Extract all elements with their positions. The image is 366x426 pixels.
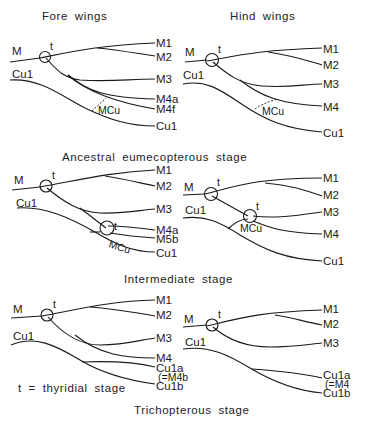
label-M2: M2 — [323, 59, 339, 71]
label-M1: M1 — [156, 37, 172, 49]
label-t-secondary: t — [256, 200, 259, 212]
label-M3: M3 — [323, 337, 339, 349]
stage-title-intermediate: Intermediate stage — [124, 273, 233, 285]
label-Cu1: Cu1 — [156, 120, 177, 132]
label-M3: M3 — [323, 206, 339, 218]
label-M1: M1 — [156, 294, 172, 306]
label-M: M — [12, 45, 22, 57]
label-M1: M1 — [323, 172, 339, 184]
label-Cu1b: Cu1b — [156, 380, 184, 392]
label-M1: M1 — [156, 164, 172, 176]
wing-venation-diagram: Fore wings Hind wings M Cu1 t M1 M2 M3 M… — [0, 0, 366, 426]
stage-ancestral-fore: M Cu1 t M1 M2 M3 M4a M4f Cu1 MCu — [10, 37, 179, 132]
fore-wings-header: Fore wings — [42, 10, 107, 22]
label-M: M — [14, 174, 24, 186]
label-Cu1-stem: Cu1 — [16, 197, 37, 209]
label-t: t — [217, 176, 220, 188]
label-Cu1b: Cu1b — [323, 387, 351, 399]
stage-trichopterous-hind: M Cu1 t M1 M2 M3 Cu1a (=M4 Cu1b — [183, 303, 351, 399]
label-MCu: MCu — [240, 222, 262, 234]
label-MCu: MCu — [107, 237, 132, 255]
label-M2: M2 — [323, 318, 339, 330]
label-t: t — [53, 298, 56, 310]
label-t: t — [52, 169, 55, 181]
label-M: M — [13, 303, 23, 315]
label-M1: M1 — [323, 43, 339, 55]
label-Cu1-stem: Cu1 — [13, 330, 34, 342]
label-MCu: MCu — [98, 104, 120, 116]
label-Cu1: Cu1 — [323, 255, 344, 267]
label-M4f: M4f — [156, 103, 176, 115]
label-M2: M2 — [156, 309, 172, 321]
label-M3: M3 — [156, 203, 172, 215]
label-Cu1-stem: Cu1 — [185, 336, 206, 348]
label-M4: M4 — [323, 228, 340, 240]
label-Cu1-stem: Cu1 — [183, 69, 204, 81]
label-t: t — [218, 43, 221, 55]
label-M: M — [184, 181, 194, 193]
label-t: t — [218, 308, 221, 320]
label-M4: M4 — [323, 101, 340, 113]
label-M2: M2 — [323, 189, 339, 201]
label-M2: M2 — [156, 51, 172, 63]
stage-intermediate-fore: M Cu1 t t M1 M2 M3 M4a M5b Cu1 MCu — [12, 164, 179, 259]
label-M5b: M5b — [156, 233, 178, 245]
label-Cu1: Cu1 — [323, 127, 344, 139]
label-MCu: MCu — [262, 105, 284, 117]
label-M1: M1 — [323, 303, 339, 315]
label-M2: M2 — [156, 180, 172, 192]
label-M: M — [185, 46, 195, 58]
stage-title-trichopterous: Trichopterous stage — [134, 404, 250, 416]
label-M3: M3 — [156, 73, 172, 85]
label-t-secondary: t — [114, 220, 117, 232]
label-Cu1-stem: Cu1 — [12, 68, 33, 80]
label-Cu1-stem: Cu1 — [185, 204, 206, 216]
stage-ancestral-hind: M Cu1 t M1 M2 M3 M4 Cu1 MCu — [183, 43, 344, 139]
stage-trichopterous-fore: M Cu1 t M1 M2 M3 M4 Cu1a (=M4b Cu1b — [11, 294, 188, 392]
stage-title-ancestral: Ancestral eumecopterous stage — [62, 151, 247, 163]
legend-thyridial: t = thyridial stage — [18, 382, 126, 394]
label-Cu1: Cu1 — [156, 247, 177, 259]
label-M3: M3 — [156, 332, 172, 344]
label-M3: M3 — [323, 78, 339, 90]
label-M: M — [184, 313, 194, 325]
hind-wings-header: Hind wings — [230, 10, 295, 22]
stage-intermediate-hind: M Cu1 t t M1 M2 M3 M4 Cu1 MCu — [183, 172, 344, 267]
label-t: t — [50, 40, 53, 52]
